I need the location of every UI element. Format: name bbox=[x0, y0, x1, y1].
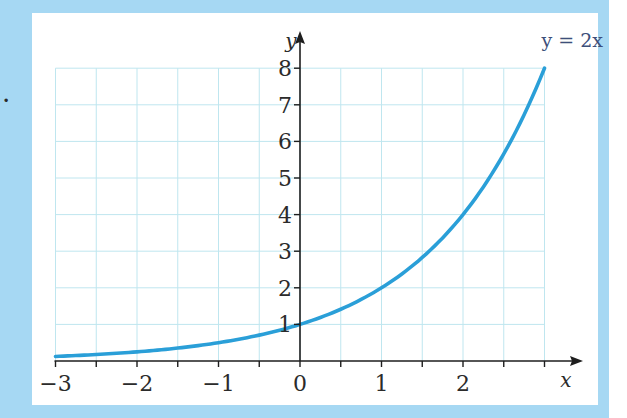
y-tick-label: 7 bbox=[278, 93, 292, 118]
x-tick-label: 2 bbox=[456, 371, 470, 396]
exponential-chart: −3−2−101212345678xy y = 2x bbox=[0, 0, 627, 418]
x-axis-label: x bbox=[560, 368, 571, 392]
y-tick-label: 4 bbox=[278, 203, 292, 228]
y-tick-label: 3 bbox=[278, 239, 292, 264]
x-tick-label: −3 bbox=[39, 371, 71, 396]
y-tick-label: 1 bbox=[278, 312, 292, 337]
curve-label: y = 2x bbox=[540, 29, 603, 51]
y-axis-label: y bbox=[284, 29, 297, 53]
y-tick-label: 5 bbox=[278, 166, 292, 191]
y-tick-label: 8 bbox=[278, 56, 292, 81]
x-tick-label: −1 bbox=[202, 371, 234, 396]
x-tick-label: 1 bbox=[375, 371, 389, 396]
y-tick-label: 2 bbox=[278, 276, 292, 301]
y-tick-label: 6 bbox=[278, 129, 292, 154]
x-tick-label: −2 bbox=[121, 371, 153, 396]
axis-labels: −3−2−101212345678xy bbox=[39, 29, 571, 396]
x-tick-label: 0 bbox=[293, 371, 307, 396]
